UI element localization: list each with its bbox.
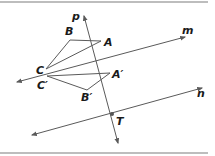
triangle-abc — [46, 40, 101, 69]
diagram-frame: p m n A B C A′ B′ C′ T — [0, 0, 215, 156]
label-point-a-prime: A′ — [111, 68, 124, 81]
triangle-abc-prime — [47, 73, 110, 90]
label-point-b: B — [65, 25, 73, 38]
label-point-a: A — [103, 36, 113, 49]
label-line-p: p — [71, 10, 80, 23]
point-t — [110, 112, 114, 116]
label-point-c-prime: C′ — [37, 79, 48, 92]
label-point-t: T — [116, 115, 125, 128]
geometry-diagram: p m n A B C A′ B′ C′ T — [0, 0, 215, 156]
label-line-m: m — [182, 24, 193, 37]
label-line-n: n — [197, 87, 205, 100]
label-point-b-prime: B′ — [81, 91, 92, 104]
label-point-c: C — [36, 64, 44, 77]
